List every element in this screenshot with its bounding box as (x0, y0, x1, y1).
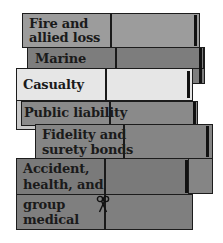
fire-divider (110, 14, 112, 47)
accident-card-back (186, 158, 213, 194)
accident-label-2: health, and (23, 177, 103, 192)
fidelity-label-2: surety bonds (42, 142, 133, 157)
fire-edge-bar (194, 15, 197, 46)
accident-card: Accident, health, and (16, 158, 189, 195)
accident-label-1: Accident, (23, 161, 89, 176)
marine-label: Marine (35, 51, 86, 66)
public-liability-divider (109, 102, 111, 125)
fidelity-divider (123, 125, 125, 158)
public-liability-label: Public liability (24, 105, 127, 120)
public-liability-card: Public liability (21, 101, 198, 126)
group-medical-label-2: medical (23, 212, 79, 227)
marine-edge-bar (199, 48, 202, 83)
casualty-divider (105, 69, 107, 100)
fidelity-label-1: Fidelity and (42, 127, 126, 142)
marine-divider (115, 48, 117, 68)
casualty-label: Casualty (23, 77, 84, 92)
fidelity-edge-bar (206, 126, 209, 157)
fire-label-1: Fire and (29, 16, 88, 31)
scissors-icon (96, 195, 110, 213)
casualty-edge-bar (187, 71, 190, 98)
fidelity-card: Fidelity and surety bonds (35, 124, 213, 159)
accident-edge-bar (185, 160, 188, 193)
fire-label-2: allied loss (29, 30, 100, 45)
casualty-card: Casualty (16, 68, 193, 101)
public-liability-edge-bar (193, 102, 196, 125)
marine-card: Marine (27, 47, 204, 69)
group-medical-label-1: group (23, 197, 65, 212)
accident-divider (104, 159, 106, 194)
fire-card: Fire and allied loss (22, 13, 200, 48)
